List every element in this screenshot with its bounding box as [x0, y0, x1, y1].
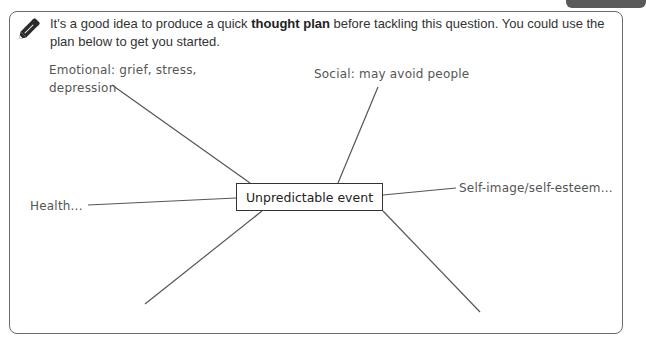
branch-line-top-left: [112, 85, 250, 183]
branch-line-bottom-left: [145, 211, 262, 304]
branch-label-social: Social: may avoid people: [314, 65, 469, 83]
branch-line-top-center: [338, 87, 378, 183]
branch-label-emotional-line2: depression: [49, 79, 197, 97]
branch-line-left: [88, 198, 236, 205]
branch-label-self-image: Self-image/self-esteem...: [459, 179, 613, 197]
branch-label-health: Health...: [30, 197, 83, 215]
branch-line-right: [383, 188, 456, 195]
branch-label-emotional-line1: Emotional: grief, stress,: [49, 61, 197, 79]
branch-label-emotional: Emotional: grief, stress, depression: [49, 61, 197, 97]
branch-line-bottom-right: [383, 211, 480, 312]
central-topic-label: Unpredictable event: [246, 190, 373, 205]
central-topic-box: Unpredictable event: [236, 183, 383, 211]
